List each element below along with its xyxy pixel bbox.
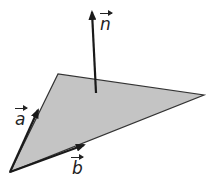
label-a: a [14,105,30,127]
label-n: n [99,10,115,32]
label-b: b [71,154,87,178]
plane-triangle [10,74,204,172]
